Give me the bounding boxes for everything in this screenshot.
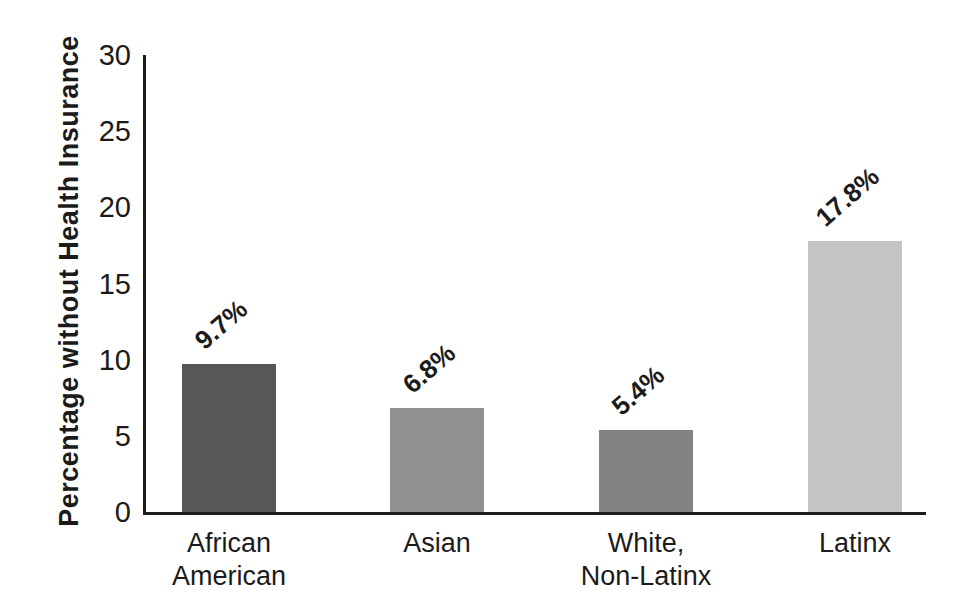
y-tick-label-30: 30 bbox=[79, 39, 131, 71]
x-axis-label-line: White, bbox=[536, 527, 756, 560]
bar-african-american bbox=[182, 364, 276, 512]
x-axis-label-line: African bbox=[119, 527, 339, 560]
value-label-9-7pct: 9.7% bbox=[189, 294, 254, 356]
bar-asian bbox=[390, 408, 484, 512]
bar-white-non-latinx bbox=[599, 430, 693, 512]
bar-latinx bbox=[808, 241, 902, 512]
value-label-17-8pct: 17.8% bbox=[810, 161, 886, 233]
x-axis-label-latinx: Latinx bbox=[745, 527, 965, 560]
y-tick-label-0: 0 bbox=[79, 496, 131, 528]
value-label-5-4pct: 5.4% bbox=[606, 359, 671, 421]
x-axis-label-asian: Asian bbox=[327, 527, 547, 560]
value-label-6-8pct: 6.8% bbox=[397, 338, 462, 400]
x-axis-label-line: American bbox=[119, 560, 339, 593]
bar-chart-figure: Percentage without Health Insurance 0510… bbox=[0, 0, 971, 612]
x-axis-label-line: Asian bbox=[327, 527, 547, 560]
x-axis-label-line: Latinx bbox=[745, 527, 965, 560]
plot-area: 051015202530 9.7%6.8%5.4%17.8% AfricanAm… bbox=[143, 55, 926, 515]
y-tick-label-5: 5 bbox=[79, 420, 131, 452]
y-tick-label-10: 10 bbox=[79, 344, 131, 376]
y-tick-label-20: 20 bbox=[79, 191, 131, 223]
x-axis-label-white-non-latinx: White,Non-Latinx bbox=[536, 527, 756, 593]
x-axis-label-african-american: AfricanAmerican bbox=[119, 527, 339, 593]
y-tick-label-15: 15 bbox=[79, 268, 131, 300]
x-axis-label-line: Non-Latinx bbox=[536, 560, 756, 593]
y-tick-label-25: 25 bbox=[79, 115, 131, 147]
